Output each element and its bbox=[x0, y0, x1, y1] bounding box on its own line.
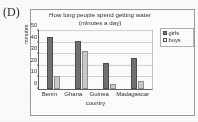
chart-legend: girlsboys bbox=[160, 28, 194, 47]
bar-girls-madagascar bbox=[131, 58, 137, 89]
x-tick-label: Ghana bbox=[64, 91, 82, 97]
bar-girls-ghana bbox=[75, 41, 81, 89]
bar-groups bbox=[39, 31, 152, 89]
x-tick-label: Guinea bbox=[90, 91, 109, 97]
y-tick-label: 10 bbox=[31, 68, 37, 74]
bar-boys-madagascar bbox=[138, 81, 144, 89]
bar-girls-guinea bbox=[103, 63, 109, 89]
bar-boys-guinea bbox=[110, 84, 116, 89]
y-axis-label: minutes bbox=[23, 24, 29, 44]
legend-label-girls: girls bbox=[169, 30, 180, 36]
figure-panel: (D) How long people spend getting water … bbox=[0, 0, 198, 122]
bar-girls-benin bbox=[47, 37, 53, 89]
bar-boys-benin bbox=[54, 76, 60, 89]
bar-group bbox=[131, 31, 144, 89]
bar-group bbox=[47, 31, 60, 89]
bar-group bbox=[103, 31, 116, 89]
legend-item-boys: boys bbox=[163, 37, 192, 43]
legend-swatch-boys bbox=[163, 38, 167, 42]
x-axis-tick-labels: BeninGhanaGuineaMadagascar bbox=[38, 91, 153, 97]
y-tick-label: 50 bbox=[31, 22, 37, 28]
bar-group bbox=[75, 31, 88, 89]
y-tick-label: 40 bbox=[31, 34, 37, 40]
plot-area: 01020304050 bbox=[38, 30, 153, 90]
panel-letter-label: (D) bbox=[3, 5, 20, 20]
y-tick-label: 20 bbox=[31, 57, 37, 63]
y-tick-label: 0 bbox=[34, 80, 37, 86]
legend-item-girls: girls bbox=[163, 30, 192, 36]
y-tick-label: 30 bbox=[31, 45, 37, 51]
x-axis-label: country bbox=[38, 100, 153, 106]
legend-swatch-girls bbox=[163, 31, 167, 35]
x-tick-label: Benin bbox=[42, 91, 57, 97]
chart-title-line-2: (minutes a day) bbox=[40, 19, 160, 27]
legend-label-boys: boys bbox=[169, 37, 181, 43]
chart-title: How long people spend getting water (min… bbox=[40, 11, 160, 26]
bar-boys-ghana bbox=[82, 51, 88, 89]
chart-title-line-1: How long people spend getting water bbox=[40, 11, 160, 19]
x-tick-label: Madagascar bbox=[116, 91, 149, 97]
